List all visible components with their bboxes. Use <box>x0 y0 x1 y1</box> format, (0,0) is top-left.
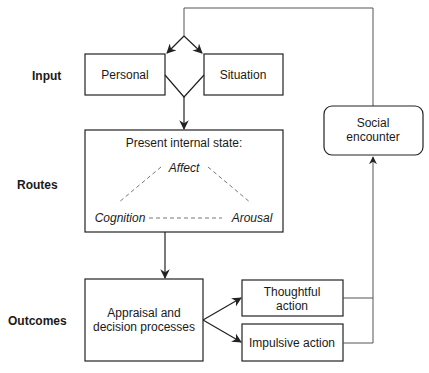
node-appraisal: Appraisal and decision processes <box>85 279 203 361</box>
appraisal-label-line2: decision processes <box>93 320 195 334</box>
row-label-outcomes: Outcomes <box>8 314 67 328</box>
merge-connector <box>165 75 204 97</box>
cognition-label: Cognition <box>95 211 146 225</box>
internal-state-title: Present internal state: <box>126 136 243 150</box>
social-label-line2: encounter <box>346 130 399 144</box>
impulsive-return-line <box>343 157 373 343</box>
situation-label: Situation <box>220 68 267 82</box>
thoughtful-label-line2: action <box>276 299 308 313</box>
personal-label: Personal <box>101 68 148 82</box>
thoughtful-label-line1: Thoughtful <box>264 285 321 299</box>
node-social-encounter: Social encounter <box>324 106 423 155</box>
row-label-input: Input <box>32 69 61 83</box>
arrow-to-thoughtful <box>203 298 241 320</box>
arousal-label: Arousal <box>231 211 273 225</box>
appraisal-label-line1: Appraisal and <box>107 306 180 320</box>
arrow-to-impulsive <box>203 320 241 342</box>
arrow-to-personal <box>167 36 184 53</box>
node-personal: Personal <box>85 54 165 95</box>
affect-label: Affect <box>168 161 200 175</box>
impulsive-label: Impulsive action <box>249 336 335 350</box>
node-internal-state: Present internal state: Affect Cognition… <box>85 130 283 232</box>
node-impulsive-action: Impulsive action <box>242 324 343 361</box>
row-label-routes: Routes <box>17 178 58 192</box>
diagram-canvas: Input Routes Outcomes Personal Situation… <box>0 0 429 373</box>
arrow-to-situation <box>184 36 202 53</box>
node-thoughtful-action: Thoughtful action <box>242 280 343 316</box>
node-situation: Situation <box>204 54 283 95</box>
social-label-line1: Social <box>357 116 390 130</box>
